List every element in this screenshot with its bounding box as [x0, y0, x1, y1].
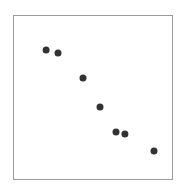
data-point — [121, 131, 128, 138]
data-point — [80, 75, 87, 82]
scatter-plot — [0, 0, 184, 187]
data-point — [97, 104, 104, 111]
data-point — [113, 128, 120, 135]
data-point — [151, 148, 158, 155]
data-points-layer — [43, 46, 158, 154]
data-point — [55, 50, 62, 57]
data-point — [43, 46, 50, 53]
